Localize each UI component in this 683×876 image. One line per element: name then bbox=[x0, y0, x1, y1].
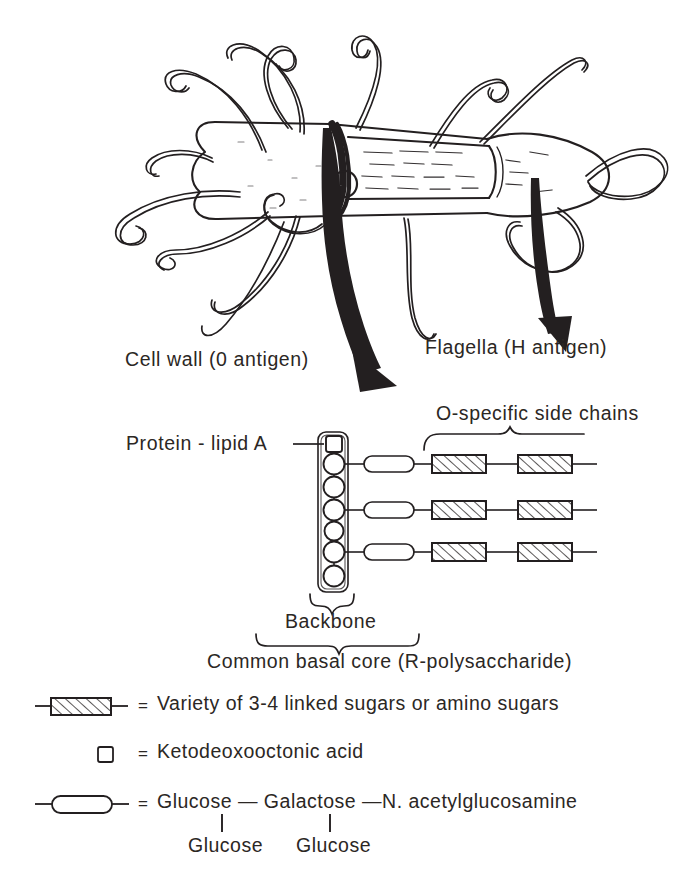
capsule-unit bbox=[364, 544, 414, 560]
flagella-label: Flagella (H antigen) bbox=[425, 338, 607, 358]
backbone-circle-chain bbox=[324, 452, 345, 587]
backbone-circle-1 bbox=[324, 454, 345, 475]
legend-equals-3: = bbox=[138, 795, 149, 812]
hatched-sugar-box bbox=[518, 455, 572, 473]
ketodeoxooctonic-acid-square bbox=[326, 436, 342, 452]
side-chain-1 bbox=[345, 455, 597, 473]
legend-hatched-sugar-box-icon bbox=[35, 698, 128, 715]
legend-entry-1-text: Variety of 3-4 linked sugars or amino su… bbox=[157, 694, 559, 714]
lps-antigen-structure-figure: Cell wall (0 antigen) Flagella (H antige… bbox=[0, 0, 683, 876]
common-basal-core-label: Common basal core (R-polysaccharide) bbox=[207, 652, 572, 672]
backbone-circle-2 bbox=[324, 477, 345, 498]
hatched-sugar-box bbox=[518, 501, 572, 519]
hatched-sugar-box bbox=[432, 455, 486, 473]
side-chain-3 bbox=[345, 543, 597, 561]
legend-entry-3-text: Glucose — Galactose —N. acetylglucosamin… bbox=[157, 792, 577, 812]
legend-small-square-icon bbox=[98, 747, 113, 762]
protein-lipid-a-label: Protein - lipid A bbox=[126, 434, 267, 454]
legend-sublabel-glucose-2: Glucose bbox=[296, 836, 371, 856]
hatched-sugar-box bbox=[432, 501, 486, 519]
capsule-unit bbox=[364, 502, 414, 518]
cell-wall-label: Cell wall (0 antigen) bbox=[125, 350, 309, 370]
backbone-circle-3 bbox=[324, 500, 345, 521]
hatched-sugar-box bbox=[432, 543, 486, 561]
legend-entry-2-text: Ketodeoxooctonic acid bbox=[157, 742, 364, 762]
backbone-circle-4 bbox=[325, 522, 344, 541]
legend-capsule-icon bbox=[35, 796, 129, 813]
legend-equals-1: = bbox=[138, 697, 149, 714]
o-specific-side-chains-label: O-specific side chains bbox=[436, 404, 639, 424]
capsule-unit bbox=[364, 456, 414, 472]
side-chain-2 bbox=[345, 501, 597, 519]
backbone-circle-6 bbox=[324, 566, 345, 587]
backbone-label: Backbone bbox=[285, 612, 377, 632]
legend-equals-2: = bbox=[138, 745, 149, 762]
backbone-circle-5 bbox=[324, 542, 345, 563]
o-specific-brace bbox=[424, 427, 584, 450]
legend-sublabel-glucose-1: Glucose bbox=[188, 836, 263, 856]
hatched-sugar-box bbox=[518, 543, 572, 561]
legend-bond-lines bbox=[222, 814, 330, 832]
